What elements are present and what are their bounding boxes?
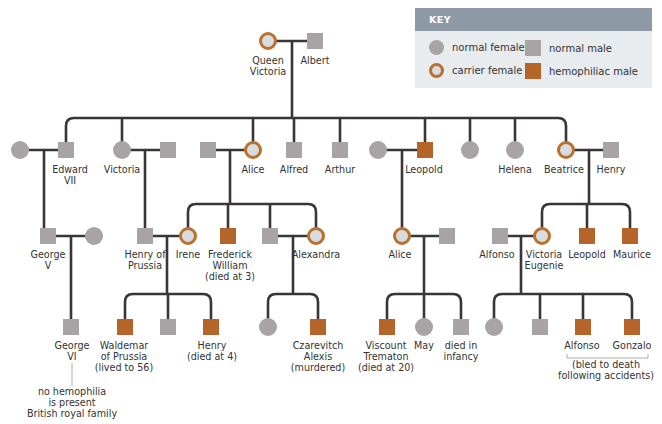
label-bled-2: following accidents) — [558, 370, 654, 381]
prussia-son-normal-male — [160, 319, 176, 335]
gonzalo-hemophiliac-male — [624, 319, 640, 335]
george-v-normal-male — [40, 228, 56, 244]
label-edward-2: VII — [64, 175, 76, 186]
alexandra-carrier-female — [309, 229, 324, 244]
label-henry: Henry — [597, 164, 626, 175]
victoria-husband-normal-male — [160, 142, 176, 158]
alexandra-normal-female — [11, 141, 29, 159]
label-george-v: George — [31, 249, 66, 260]
key-hemophiliac-male: hemophiliac male — [525, 63, 638, 79]
label-irene: Irene — [176, 249, 201, 260]
labels: Queen Victoria Albert Edward VII Victori… — [27, 55, 654, 419]
label-waldemar-2: of Prussia — [101, 351, 147, 362]
label-edward: Edward — [52, 164, 88, 175]
key-label: normal male — [549, 43, 612, 54]
maurice-hemophiliac-male — [622, 228, 638, 244]
label-alexis-2: Alexis — [304, 351, 332, 362]
orange-square-icon — [525, 63, 541, 79]
helena-normal-female — [506, 141, 524, 159]
henry-normal-male — [603, 142, 619, 158]
label-henry-gen4-2: (died at 4) — [187, 351, 237, 362]
key-label: hemophiliac male — [549, 66, 638, 77]
label-leopold: Leopold — [405, 164, 443, 175]
label-helena: Helena — [498, 164, 532, 175]
label-beatrice: Beatrice — [544, 164, 584, 175]
victoria-normal-female — [113, 141, 131, 159]
henry-gen4-hemophiliac-male — [203, 319, 219, 335]
victoria-eugenie-carrier-female — [535, 229, 550, 244]
label-alice-gen3: Alice — [388, 249, 411, 260]
label-trematon-3: (died at 20) — [358, 362, 414, 373]
label-frederick-3: (died at 3) — [205, 271, 255, 282]
spain-son-normal-male — [532, 319, 548, 335]
label-alexis-3: (murdered) — [291, 362, 345, 373]
circle-icon — [429, 40, 444, 55]
label-maurice: Maurice — [613, 249, 651, 260]
label-trematon-2: Trematon — [362, 351, 408, 362]
alice-husband-gen3-normal-male — [439, 228, 455, 244]
key-label: normal female — [452, 42, 525, 53]
label-waldemar-3: (lived to 56) — [95, 362, 153, 373]
label-alfonso-gen3: Alfonso — [479, 249, 515, 260]
george-v-wife-normal-female — [85, 227, 103, 245]
label-george-vi-2: VI — [67, 351, 76, 362]
spain-daughter-normal-female — [485, 318, 503, 336]
alfonso-gen4-hemophiliac-male — [575, 319, 591, 335]
edward-vii-normal-male — [58, 142, 74, 158]
frederick-william-hemophiliac-male — [220, 228, 236, 244]
key-carrier-female: carrier female — [429, 63, 522, 78]
bracket — [567, 354, 648, 358]
label-bled: (bled to death — [572, 359, 640, 370]
infant-normal-male — [453, 319, 469, 335]
romanov-daughter-normal-female — [259, 318, 277, 336]
key-normal-male: normal male — [525, 40, 612, 56]
label-leopold-gen3: Leopold — [568, 249, 606, 260]
key-normal-female: normal female — [429, 40, 525, 55]
label-alice: Alice — [241, 164, 264, 175]
alexis-hemophiliac-male — [310, 319, 326, 335]
alice-husband-normal-male — [200, 142, 216, 158]
label-victoria-eugenie-2: Eugenie — [525, 260, 564, 271]
waldemar-hemophiliac-male — [117, 319, 133, 335]
label-waldemar: Waldemar — [100, 340, 149, 351]
leopold-hemophiliac-male — [417, 142, 433, 158]
george-vi-normal-male — [63, 319, 79, 335]
label-henry-gen4: Henry — [198, 340, 227, 351]
label-frederick-2: William — [212, 260, 247, 271]
label-alexandra: Alexandra — [292, 249, 341, 260]
label-arthur: Arthur — [325, 164, 355, 175]
alice-gen3-carrier-female — [395, 229, 410, 244]
label-frederick: Frederick — [208, 249, 252, 260]
alfonso-gen3-normal-male — [492, 228, 508, 244]
label-henry-prussia: Henry of — [124, 249, 166, 260]
key-title: KEY — [415, 8, 652, 31]
label-henry-prussia-2: Prussia — [128, 260, 162, 271]
irene-carrier-female — [181, 229, 196, 244]
label-george-v-2: V — [45, 260, 52, 271]
may-normal-female — [415, 318, 433, 336]
label-may: May — [414, 340, 434, 351]
label-victoria-eugenie: Victoria — [526, 249, 562, 260]
label-gonzalo: Gonzalo — [613, 340, 652, 351]
label-alfred: Alfred — [280, 164, 308, 175]
label-victoria: Victoria — [104, 164, 140, 175]
leopold-gen3-hemophiliac-male — [579, 228, 595, 244]
label-alfonso-gen4: Alfonso — [564, 340, 600, 351]
alice-carrier-female — [246, 143, 261, 158]
queen-victoria-carrier-female — [261, 34, 276, 49]
label-alexis: Czarevitch — [293, 340, 344, 351]
trematon-hemophiliac-male — [379, 319, 395, 335]
label-infancy-2: infancy — [443, 351, 478, 362]
alexandra-husband-normal-male — [262, 228, 278, 244]
label-albert: Albert — [301, 55, 330, 66]
arthur-normal-male — [332, 142, 348, 158]
note-text: no hemophilia — [38, 386, 106, 397]
beatrice-carrier-female — [559, 143, 574, 158]
leopold-wife-normal-female — [369, 141, 387, 159]
alfred-normal-male — [286, 142, 302, 158]
daughter-normal-female — [461, 141, 479, 159]
label-queen-victoria: Queen — [252, 55, 284, 66]
note-text-3: British royal family — [27, 408, 118, 419]
label-infancy: died in — [445, 340, 478, 351]
square-icon — [525, 40, 541, 56]
